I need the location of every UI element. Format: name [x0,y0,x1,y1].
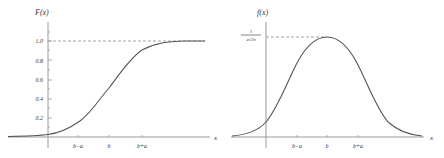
pdf-peak-label: 1 a√2π [241,29,261,42]
cdf-xtick-b: b [108,143,111,149]
pdf-xtick-b-minus-a: b−a [292,143,302,149]
pdf-xtick-b-plus-a: b+a [353,143,363,149]
pdf-x-label: x [429,134,434,142]
cdf-ytick-0-8: 0.8 [36,58,44,64]
cdf-ytick-0-6: 0.6 [36,77,44,83]
pdf-y-label: f(x) [257,8,268,17]
pdf-curve [232,37,422,136]
cdf-curve [8,41,205,137]
cdf-y-ticks [48,32,52,127]
cdf-xtick-b-minus-a: b−a [73,143,83,149]
cdf-xtick-b-plus-a: b+a [137,143,147,149]
cdf-x-label: x [213,134,218,142]
cdf-y-label: F(x) [34,8,49,17]
cdf-ytick-0-4: 0.4 [36,96,44,102]
cdf-chart: F(x) x 0.2 0.4 0.6 0.8 1.0 b−a b b+a [8,8,218,149]
chart-canvas: F(x) x 0.2 0.4 0.6 0.8 1.0 b−a b b+a f(x… [0,0,444,158]
cdf-ytick-0-2: 0.2 [36,115,44,121]
pdf-peak-numerator: 1 [250,29,253,34]
pdf-chart: f(x) x 1 a√2π b−a b b+a [231,8,434,149]
pdf-peak-denominator: a√2π [246,37,256,42]
pdf-xtick-b: b [326,143,329,149]
cdf-ytick-1-0: 1.0 [36,38,44,44]
